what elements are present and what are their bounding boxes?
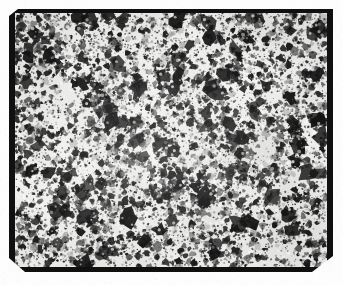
- micrograph-texture-canvas: [15, 13, 327, 267]
- photo-frame-border: [9, 9, 333, 272]
- micrograph-image-field: [15, 13, 327, 267]
- micrograph-plate-root: [0, 0, 343, 285]
